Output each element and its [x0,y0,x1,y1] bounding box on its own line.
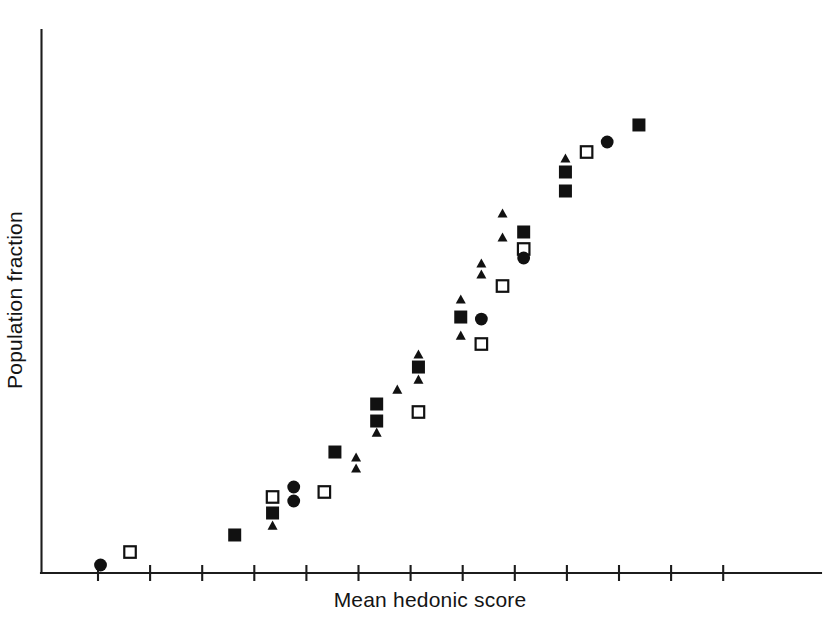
data-point-filled-square [328,446,341,459]
data-point-filled-circle [287,495,300,508]
axes-group [41,30,821,573]
data-point-filled-triangle [268,520,278,529]
data-point-open-square [476,338,488,350]
data-point-filled-circle [475,313,488,326]
data-point-filled-triangle [456,294,466,303]
data-point-filled-square [517,225,530,238]
series-filled-triangle [268,153,571,529]
data-point-filled-triangle [413,374,423,383]
data-point-filled-triangle [413,349,423,358]
x-axis-title: Mean hedonic score [334,588,527,611]
data-point-filled-square [412,361,425,374]
data-point-filled-circle [94,559,107,572]
data-point-filled-square [559,184,572,197]
data-point-filled-square [266,506,279,519]
data-point-open-square [319,486,331,498]
data-point-filled-circle [601,136,614,149]
data-point-filled-square [559,165,572,178]
series-filled-circle [94,136,613,572]
data-point-open-square [267,491,279,503]
data-point-open-square [497,280,509,292]
data-point-filled-triangle [351,463,361,472]
scatter-plot: Mean hedonic score Population fraction [0,0,832,633]
data-point-filled-triangle [392,384,402,393]
y-axis-title: Population fraction [3,211,26,389]
data-point-filled-circle [287,481,300,494]
data-point-filled-triangle [476,269,486,278]
data-point-open-square [413,406,425,418]
data-point-filled-triangle [560,153,570,162]
data-point-filled-triangle [498,208,508,217]
data-point-filled-triangle [456,330,466,339]
chart-figure: Mean hedonic score Population fraction [0,0,832,633]
data-point-filled-triangle [498,232,508,241]
series-filled-square [228,118,645,541]
data-point-filled-triangle [476,258,486,267]
data-point-filled-triangle [372,427,382,436]
data-point-filled-circle [517,252,530,265]
data-point-open-square [581,146,593,158]
data-point-filled-triangle [351,452,361,461]
data-markers-group [94,118,645,571]
data-point-open-square [124,546,136,558]
data-point-filled-square [632,118,645,131]
data-point-filled-square [228,528,241,541]
data-point-filled-square [370,415,383,428]
data-point-filled-square [370,398,383,411]
series-open-square [124,146,592,558]
data-point-filled-square [454,311,467,324]
